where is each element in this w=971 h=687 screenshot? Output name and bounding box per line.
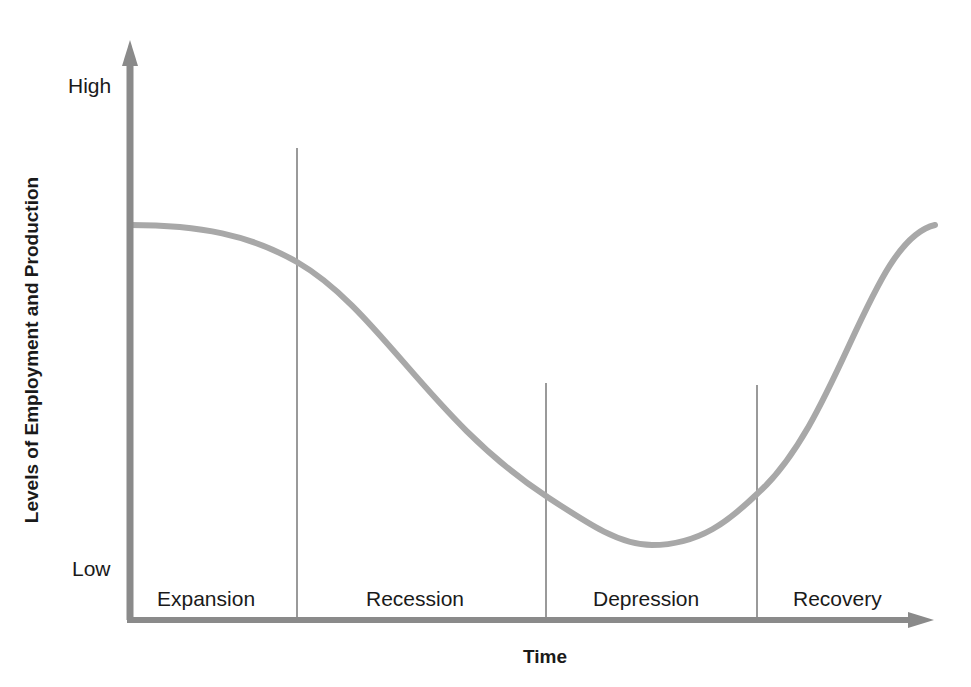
x-axis-title: Time bbox=[523, 646, 567, 668]
y-low-label: Low bbox=[72, 557, 111, 581]
phase-label-recession: Recession bbox=[366, 587, 464, 611]
phase-label-depression: Depression bbox=[593, 587, 699, 611]
y-axis-title: Levels of Employment and Production bbox=[21, 177, 43, 523]
x-axis-arrow-icon bbox=[908, 612, 934, 628]
business-cycle-diagram bbox=[0, 0, 971, 687]
phase-label-recovery: Recovery bbox=[793, 587, 882, 611]
business-cycle-curve bbox=[130, 225, 935, 545]
y-high-label: High bbox=[68, 74, 111, 98]
y-axis-arrow-icon bbox=[122, 40, 138, 66]
phase-label-expansion: Expansion bbox=[157, 587, 255, 611]
